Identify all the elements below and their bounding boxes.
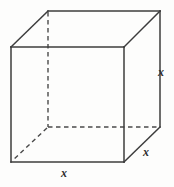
dimension-label-bottom-edge: x: [61, 167, 67, 179]
cube-front-face: [11, 47, 124, 162]
dimension-label-right-edge: x: [158, 66, 164, 78]
dimension-label-depth-edge: x: [143, 146, 149, 158]
cube-figure: x x x: [0, 0, 174, 187]
